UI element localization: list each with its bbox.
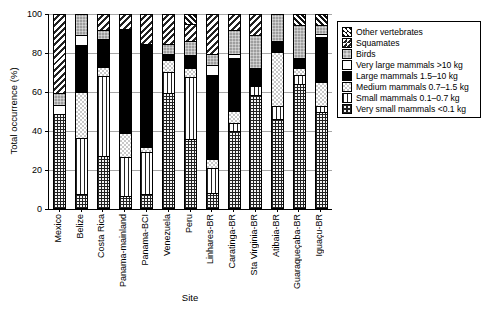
bar-atibaia-br bbox=[271, 14, 284, 209]
segment-small bbox=[272, 106, 283, 120]
legend-swatch-birds bbox=[342, 49, 352, 59]
segment-very_small bbox=[76, 194, 87, 208]
x-label-0: Mexico bbox=[53, 214, 63, 243]
segment-birds bbox=[207, 54, 218, 66]
segment-small bbox=[250, 86, 261, 95]
segment-very_large bbox=[207, 65, 218, 75]
x-tick-2 bbox=[102, 209, 103, 212]
segment-small bbox=[207, 168, 218, 193]
legend-swatch-very_large bbox=[342, 60, 352, 70]
segment-large bbox=[141, 44, 152, 147]
segment-very_large bbox=[76, 35, 87, 45]
y-axis-title: Total occurrence (%) bbox=[8, 67, 19, 154]
segment-very_small bbox=[229, 131, 240, 208]
segment-squamates bbox=[207, 15, 218, 54]
segment-medium bbox=[207, 159, 218, 169]
segment-birds bbox=[54, 93, 65, 105]
x-tick-0 bbox=[59, 209, 60, 212]
legend-item-large: Large mammals 1.5–10 kg bbox=[342, 70, 476, 81]
x-label-6: Peru bbox=[184, 214, 194, 233]
legend-item-birds: Birds bbox=[342, 48, 476, 59]
x-tick-12 bbox=[320, 209, 321, 212]
segment-squamates bbox=[185, 24, 196, 41]
segment-medium bbox=[294, 68, 305, 75]
segment-squamates bbox=[54, 15, 65, 93]
x-label-1: Belize bbox=[75, 214, 85, 239]
x-label-9: Sta Virginia-BR bbox=[249, 214, 259, 275]
segment-very_small bbox=[207, 193, 218, 207]
bar-guaraque-aba-br bbox=[293, 14, 306, 209]
x-tick-3 bbox=[124, 209, 125, 212]
segment-small bbox=[185, 77, 196, 140]
bar-linhares-br bbox=[206, 14, 219, 209]
segment-large bbox=[98, 39, 109, 67]
bar-panama-bci bbox=[140, 14, 153, 209]
legend-swatch-squamates bbox=[342, 38, 352, 48]
segment-medium bbox=[98, 67, 109, 76]
x-label-3: Panama-mainland bbox=[118, 214, 128, 287]
segment-birds bbox=[294, 25, 305, 59]
bar-sta-virginia-br bbox=[249, 14, 262, 209]
segment-other bbox=[316, 15, 327, 25]
segment-large bbox=[272, 41, 283, 52]
segment-birds bbox=[229, 30, 240, 53]
legend-swatch-other bbox=[342, 27, 352, 37]
y-tick-80 bbox=[45, 53, 49, 54]
segment-large bbox=[207, 75, 218, 159]
segment-birds bbox=[272, 15, 283, 41]
segment-very_small bbox=[272, 119, 283, 208]
bar-igua-u-br bbox=[315, 14, 328, 209]
bar-belize bbox=[75, 14, 88, 209]
segment-small bbox=[120, 157, 131, 197]
x-label-12: Iguaçu-BR bbox=[314, 214, 324, 257]
segment-small bbox=[294, 75, 305, 85]
y-tick-label-80: 80 bbox=[12, 48, 42, 58]
bar-panama-mainland bbox=[119, 14, 132, 209]
segment-very_small bbox=[98, 156, 109, 208]
y-tick-40 bbox=[45, 131, 49, 132]
segment-squamates bbox=[120, 15, 131, 29]
segment-large bbox=[185, 55, 196, 69]
segment-squamates bbox=[98, 15, 109, 30]
segment-very_small bbox=[250, 95, 261, 208]
segment-small bbox=[76, 138, 87, 194]
segment-other bbox=[185, 15, 196, 24]
segment-large bbox=[294, 58, 305, 68]
x-label-8: Caratinga-BR bbox=[227, 214, 237, 269]
segment-squamates bbox=[229, 15, 240, 30]
x-axis-labels: MexicoBelizeCosta RicaPanama-mainlandPan… bbox=[48, 214, 331, 300]
bar-venezuela bbox=[162, 14, 175, 209]
segment-very_small bbox=[185, 139, 196, 208]
segment-very_small bbox=[316, 112, 327, 208]
legend-item-very_small: Very small mammals <0.1 kg bbox=[342, 103, 476, 114]
segment-medium bbox=[272, 52, 283, 106]
y-tick-20 bbox=[45, 170, 49, 171]
segment-medium bbox=[120, 133, 131, 157]
segment-medium bbox=[185, 68, 196, 77]
y-tick-label-20: 20 bbox=[12, 165, 42, 175]
segment-small bbox=[229, 123, 240, 131]
segment-large bbox=[76, 45, 87, 92]
segment-other bbox=[294, 15, 305, 25]
x-label-5: Venezuela bbox=[162, 214, 172, 256]
legend-label-large: Large mammals 1.5–10 kg bbox=[356, 71, 458, 81]
segment-squamates bbox=[163, 15, 174, 44]
segment-large bbox=[163, 54, 174, 61]
segment-squamates bbox=[141, 15, 152, 44]
bar-costa-rica bbox=[97, 14, 110, 209]
segment-large bbox=[316, 37, 327, 81]
legend-label-small: Small mammals 0.1–0.7 kg bbox=[356, 93, 460, 103]
legend-label-medium: Medium mammals 0.7–1.5 kg bbox=[356, 82, 469, 92]
y-tick-label-0: 0 bbox=[12, 204, 42, 214]
bar-mexico bbox=[53, 14, 66, 209]
segment-birds bbox=[163, 44, 174, 54]
segment-squamates bbox=[250, 15, 261, 35]
segment-very_small bbox=[120, 196, 131, 208]
x-tick-9 bbox=[255, 209, 256, 212]
y-tick-label-100: 100 bbox=[12, 9, 42, 19]
x-tick-8 bbox=[233, 209, 234, 212]
segment-small bbox=[98, 76, 109, 156]
x-tick-6 bbox=[190, 209, 191, 212]
segment-very_small bbox=[294, 84, 305, 208]
x-label-7: Linhares-BR bbox=[205, 214, 215, 264]
